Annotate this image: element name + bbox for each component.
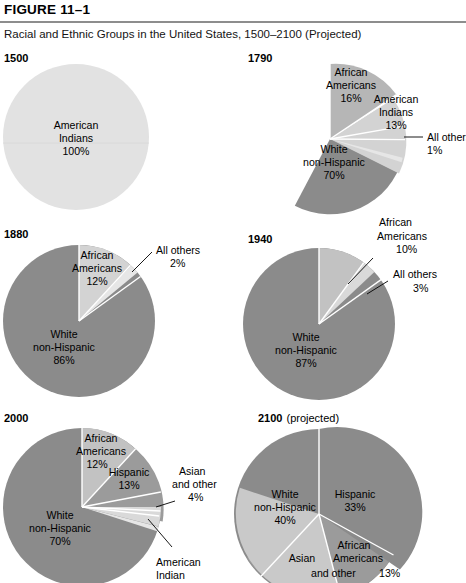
pie-label-african-americans-line2: Americans	[72, 262, 122, 274]
pie-chart-1500: American Indians 100%	[0, 52, 233, 227]
pie-chart-1790: African Americans 16% American Indians 1…	[233, 52, 466, 230]
pie-label-african-americans-pct: 12%	[86, 458, 108, 470]
figure-root: FIGURE 11–1 Racial and Ethnic Groups in …	[0, 0, 466, 583]
pie-label-asian-and-other-pct: 4%	[188, 491, 204, 503]
pie-label-american-indian-group: American Indian 1%	[156, 556, 210, 583]
pie-label-asian-and-other-line2: and other	[311, 567, 356, 579]
pie-label-white-non-hispanic-pct: 86%	[53, 354, 75, 366]
pie-label-hispanic-pct: 33%	[344, 501, 366, 513]
pie-label-african-americans-pct: 16%	[340, 92, 362, 104]
pie-label-white-non-hispanic-line2: non-Hispanic	[303, 156, 366, 168]
pie-label-american-indians-line1: American	[54, 119, 99, 131]
pie-label-african-americans-line1: African	[81, 249, 114, 261]
pie-label-african-americans-pct: 10%	[396, 243, 418, 255]
pie-label-white-non-hispanic-line1: White	[271, 488, 298, 500]
chart-year-2100-value: 2100	[258, 412, 282, 424]
pie-label-hispanic-line1: Hispanic	[335, 488, 376, 500]
pie-label-white-non-hispanic-line2: non-Hispanic	[33, 341, 96, 353]
pie-label-white-non-hispanic-line1: White	[320, 143, 347, 155]
pie-label-all-others-line1: All others	[393, 268, 437, 280]
chart-panel-1940: 1940 White non-Hispanic 87% African Amer…	[233, 228, 466, 408]
chart-panel-2000: 2000 African Americans 12% Hispanic 13% …	[0, 404, 233, 583]
pie-label-american-indian-line2: Indian	[156, 569, 210, 582]
chart-year-1940: 1940	[248, 233, 272, 245]
pie-label-african-americans-line1: African	[335, 66, 368, 78]
pie-label-all-others-line1: All others	[427, 131, 466, 143]
figure-number: FIGURE 11–1	[4, 2, 90, 17]
pie-label-american-indians-line2: Indians	[379, 106, 413, 118]
pie-label-african-americans-line2: Americans	[377, 230, 427, 242]
figure-caption: Racial and Ethnic Groups in the United S…	[4, 28, 361, 40]
chart-panel-1790: 1790 African Americans 16% American Indi…	[233, 52, 466, 232]
pie-label-african-americans-pct: 13%	[379, 567, 400, 579]
pie-label-asian-and-other-line1: Asian	[289, 552, 316, 564]
pie-label-all-others-pct: 3%	[413, 282, 429, 294]
pie-chart-1940: White non-Hispanic 87% African Americans…	[233, 228, 466, 404]
pie-label-all-others-line1: All others	[156, 244, 200, 256]
figure-rule	[0, 21, 466, 23]
pie-label-hispanic-line1: Hispanic	[109, 466, 150, 478]
chart-year-1880: 1880	[4, 228, 28, 240]
chart-panel-2100: 2100(projected) White non-Hispanic 40% H…	[233, 404, 466, 583]
pie-chart-2000: African Americans 12% Hispanic 13% White…	[0, 404, 233, 554]
pie-leader-all-others	[132, 252, 152, 272]
pie-label-white-non-hispanic-line2: non-Hispanic	[254, 501, 317, 513]
pie-label-asian-and-other-line1: Asian	[179, 465, 206, 477]
pie-label-african-americans-line1: African	[338, 539, 371, 551]
pie-label-white-non-hispanic-pct: 40%	[274, 514, 296, 526]
chart-year-1500: 1500	[4, 52, 28, 64]
pie-label-white-non-hispanic-pct: 70%	[49, 535, 71, 547]
pie-label-all-others-pct: 1%	[427, 144, 443, 156]
pie-label-white-non-hispanic-line1: White	[292, 331, 319, 343]
pie-chart-2100: White non-Hispanic 40% Hispanic 33% Afri…	[233, 404, 466, 559]
pie-label-white-non-hispanic-pct: 87%	[295, 357, 317, 369]
pie-label-white-non-hispanic-line1: White	[46, 509, 73, 521]
pie-label-african-americans-line2: Americans	[76, 445, 126, 457]
pie-label-american-indians-pct: 100%	[62, 145, 90, 157]
chart-year-2100-note: (projected)	[286, 412, 339, 424]
pie-label-african-americans-line2: Americans	[326, 79, 376, 91]
pie-label-american-indians-line2: Indians	[59, 132, 93, 144]
pie-chart-1880: African Americans 12% White non-Hispanic…	[0, 228, 233, 404]
chart-panel-1880: 1880 African Americans 12% White non-His…	[0, 228, 233, 408]
pie-label-asian-and-other-line2: and other	[172, 478, 217, 490]
pie-label-african-americans-line2: Americans	[333, 552, 383, 564]
pie-label-american-indians-line1: American	[374, 93, 419, 105]
pie-label-white-non-hispanic-line1: White	[50, 328, 77, 340]
pie-label-american-indians-pct: 13%	[385, 119, 407, 131]
pie-label-african-americans-line1: African	[85, 432, 118, 444]
chart-year-1790: 1790	[248, 52, 272, 64]
pie-label-african-americans-pct: 12%	[86, 275, 108, 287]
pie-label-white-non-hispanic-line2: non-Hispanic	[29, 522, 92, 534]
pie-label-white-non-hispanic-line2: non-Hispanic	[275, 344, 338, 356]
chart-year-2100: 2100(projected)	[258, 412, 339, 424]
chart-panel-1500: 1500 American Indians 100%	[0, 52, 233, 232]
pie-separator-3	[330, 139, 405, 140]
pie-label-white-non-hispanic-pct: 70%	[323, 169, 345, 181]
chart-year-2000: 2000	[4, 412, 28, 424]
pie-label-american-indian-line1: American	[156, 556, 210, 569]
pie-label-all-others-pct: 2%	[170, 257, 186, 269]
pie-label-hispanic-pct: 13%	[118, 479, 140, 491]
pie-label-african-americans-line1: African	[379, 216, 412, 228]
